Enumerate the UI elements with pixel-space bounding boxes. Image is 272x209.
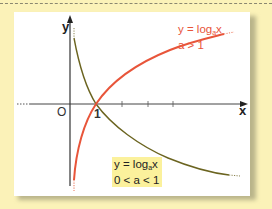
equation-prefix: y = log: [114, 158, 148, 170]
tick-label-one: 1: [94, 108, 101, 120]
increasing-curve-label: y = logax a > 1: [178, 23, 222, 51]
equation-suffix: x: [216, 23, 222, 35]
condition: a > 1: [178, 39, 204, 51]
y-axis: [67, 15, 73, 186]
equation-prefix: y = log: [178, 23, 212, 35]
decreasing-curve-label: y = logax 0 < a < 1: [112, 157, 162, 187]
origin-label: O: [57, 106, 66, 118]
x-axis: [17, 101, 248, 107]
equation-suffix: x: [152, 158, 158, 170]
condition: 0 < a < 1: [114, 174, 159, 186]
x-axis-label: x: [239, 105, 246, 117]
y-axis-label: y: [62, 21, 69, 33]
